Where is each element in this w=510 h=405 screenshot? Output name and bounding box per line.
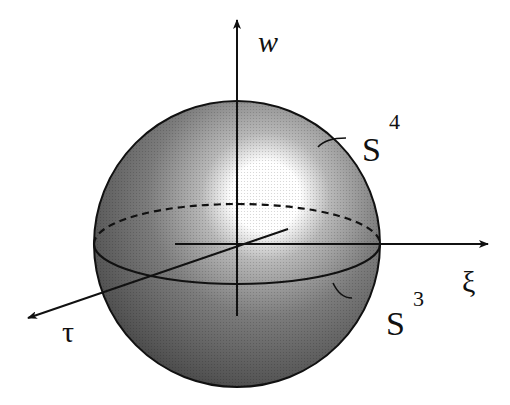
tau-axis-label: τ [62, 315, 74, 348]
s3-label-superscript: 3 [413, 286, 424, 311]
s3-label: S [386, 305, 405, 342]
s4-label: S [362, 131, 381, 168]
xi-axis-label: ξ [462, 265, 475, 298]
s4-label-superscript: 4 [389, 109, 400, 134]
sphere-diagram: w ξ τ S 4 S 3 [0, 0, 510, 405]
w-axis-label: w [258, 25, 278, 58]
